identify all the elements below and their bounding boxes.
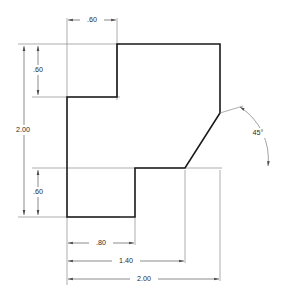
technical-drawing: .60 .60 2.00 .60 .80: [0, 0, 282, 292]
dimension-top-width: .60: [68, 15, 116, 25]
extension-lines: [18, 18, 222, 285]
dim-label-bottom-mid: 1.40: [119, 256, 133, 265]
drawing-canvas: .60 .60 2.00 .60 .80: [0, 0, 282, 292]
dim-label-left-lower: .60: [33, 187, 43, 196]
dim-label-bottom-overall: 2.00: [137, 274, 151, 283]
dim-label-top-width: .60: [87, 15, 97, 24]
angle-leader-line: [220, 106, 243, 113]
part-outline: [67, 44, 220, 217]
dimension-bottom-notch: .80: [68, 238, 134, 248]
dim-label-left-upper: .60: [33, 65, 43, 74]
dimension-bottom-overall: 2.00: [68, 274, 219, 284]
dim-label-bottom-notch: .80: [96, 238, 106, 247]
dimension-chamfer-angle: 45°: [220, 106, 269, 166]
dimension-left-upper: .60: [28, 46, 48, 95]
dim-label-chamfer-angle: 45°: [253, 128, 264, 137]
dimension-bottom-mid: 1.40: [68, 256, 184, 266]
dim-label-left-overall: 2.00: [16, 125, 30, 134]
dimension-left-lower: .60: [28, 170, 48, 215]
